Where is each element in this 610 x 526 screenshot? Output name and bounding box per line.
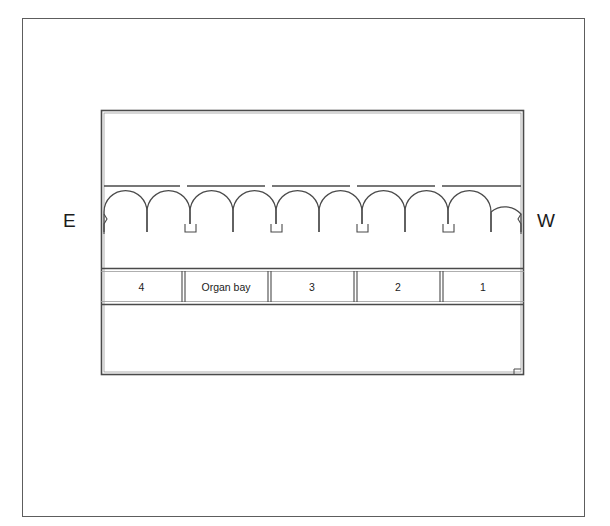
- arch-4: [233, 191, 276, 233]
- compass-label-east: E: [63, 211, 76, 230]
- compass-label-west: W: [537, 211, 555, 230]
- arch-2: [147, 191, 190, 233]
- plan-inner-rectangle: [104, 113, 521, 372]
- arch-8: [405, 191, 448, 233]
- arch-1: [104, 191, 147, 233]
- pier-1: [185, 224, 196, 232]
- arcade-group: [104, 191, 521, 233]
- pier-3: [357, 224, 368, 232]
- arch-6: [319, 191, 362, 233]
- pier-4: [443, 224, 454, 232]
- plan-outer-rectangle: [102, 111, 524, 375]
- bay-cell-1: 1: [442, 270, 524, 303]
- bay-label-row: 4 Organ bay 3 2 1: [101, 270, 524, 303]
- pier-2: [271, 224, 282, 232]
- drawing-canvas: E W 4 Organ bay 3 2 1: [0, 0, 610, 526]
- plan-outline-group: [102, 111, 524, 375]
- plan-linework-svg: [0, 0, 610, 526]
- bay-cell-4: 4: [101, 270, 182, 303]
- arch-10: [491, 207, 521, 232]
- bay-cell-3: 3: [270, 270, 354, 303]
- bay-cell-organ-bay: Organ bay: [184, 270, 268, 303]
- bay-cell-2: 2: [356, 270, 440, 303]
- floor-plan-drawing: [0, 0, 610, 526]
- respond-group: [104, 214, 521, 234]
- corner-tick-group: [514, 369, 521, 374]
